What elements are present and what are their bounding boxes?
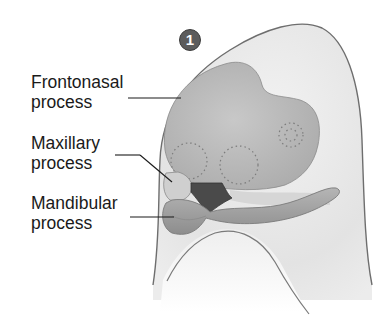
label-line: process	[31, 213, 118, 233]
label-line: Maxillary	[31, 133, 100, 153]
label-frontonasal-process: Frontonasal process	[31, 72, 123, 112]
step-number-badge: 1	[179, 29, 201, 51]
embryo-face-diagram: 1 Frontonasal process Maxillary process …	[0, 0, 385, 333]
label-maxillary-process: Maxillary process	[31, 133, 100, 173]
label-line: process	[31, 153, 100, 173]
label-line: Mandibular	[31, 193, 118, 213]
label-line: process	[31, 92, 123, 112]
label-mandibular-process: Mandibular process	[31, 193, 118, 233]
label-line: Frontonasal	[31, 72, 123, 92]
